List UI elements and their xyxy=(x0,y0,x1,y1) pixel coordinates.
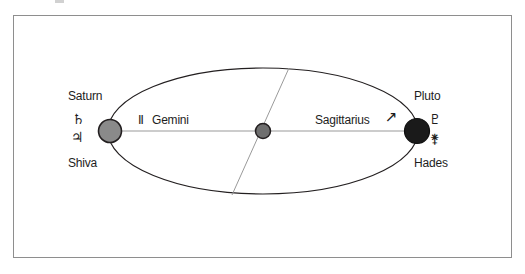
label-sagittarius: Sagittarius xyxy=(315,114,370,126)
shiva-trident-symbol-icon: ♃ xyxy=(71,130,84,144)
center-body[interactable] xyxy=(256,124,271,139)
saturn-symbol-icon: ♄ xyxy=(72,112,85,126)
hades-symbol-icon: ⚵ xyxy=(430,132,440,145)
planet-pluto[interactable] xyxy=(405,119,430,144)
label-shiva: Shiva xyxy=(68,157,97,169)
pluto-symbol-icon: ♇ xyxy=(429,112,442,126)
label-hades: Hades xyxy=(414,157,448,169)
gemini-symbol-icon: Ⅱ xyxy=(138,114,144,126)
figure-root: Saturn Shiva Pluto Hades Gemini Sagittar… xyxy=(0,0,525,274)
sagittarius-symbol-icon: ↗ xyxy=(385,110,398,125)
label-saturn: Saturn xyxy=(68,90,102,102)
label-gemini: Gemini xyxy=(152,114,189,126)
planet-saturn[interactable] xyxy=(99,120,122,143)
label-pluto: Pluto xyxy=(414,90,440,102)
